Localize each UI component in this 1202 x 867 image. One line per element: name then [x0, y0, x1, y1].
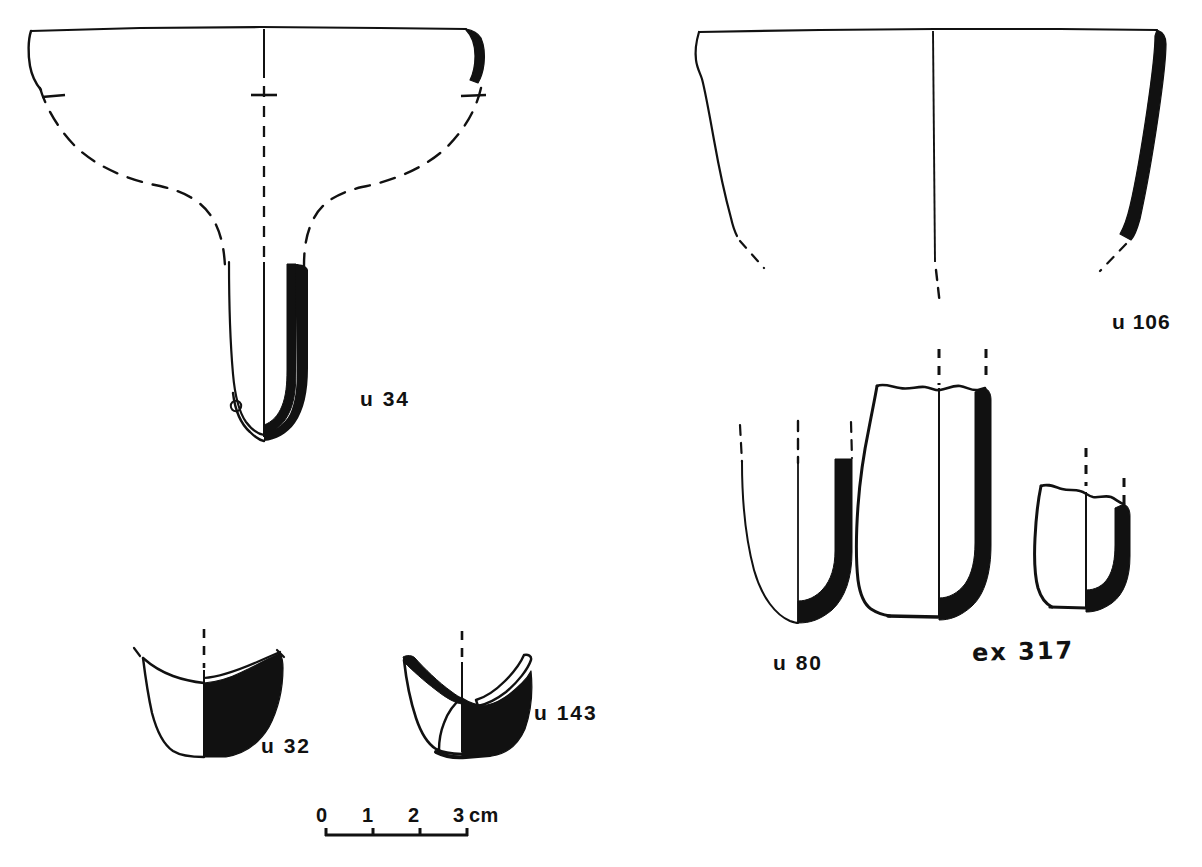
figure-u106: [696, 29, 1166, 305]
scale-number-1: 1: [362, 805, 373, 825]
u34-left-tick: [42, 95, 65, 97]
u143-right-black-body: [462, 671, 532, 756]
ex317tall-right-black: [939, 388, 991, 620]
u34-right-dashed-profile: [304, 88, 481, 266]
ex317small-broken-top-edge: [1041, 485, 1124, 504]
figure-ex317-tall: [857, 349, 992, 620]
ex317tall-base-bottom: [888, 616, 938, 617]
figure-label-u106: u 106: [1112, 311, 1171, 332]
u32-left-break-tick: [134, 648, 140, 656]
u32-left-rim-interior: [143, 658, 204, 683]
u143-left-interior-wall: [439, 698, 462, 750]
u106-left-wall: [696, 32, 737, 236]
u34-right-tick: [461, 95, 486, 96]
u34-right-rim-black: [466, 29, 484, 83]
figure-u143: [403, 631, 532, 757]
figure-label-u80: u 80: [773, 652, 823, 673]
ex317small-base-bottom: [1050, 607, 1086, 608]
figure-label-u34: u 34: [360, 388, 410, 409]
figure-u34: [29, 27, 486, 441]
u106-right-break-dashes: [1100, 244, 1126, 271]
pottery-plate: u 34 u 106 u 80 ex 317 u 32 u 143 0 1 2 …: [0, 0, 1202, 867]
u34-stem-right-black: [264, 264, 296, 435]
figure-label-u32: u 32: [261, 735, 311, 756]
u106-rim-top-line: [699, 29, 1157, 32]
scale-unit-label: cm: [469, 805, 499, 825]
figure-label-ex317: ex 317: [972, 638, 1075, 665]
u34-left-rim-wall: [29, 31, 41, 90]
u34-left-dashed-profile: [40, 88, 225, 266]
figure-ex317-small: [1035, 448, 1130, 612]
u34-stem-left-outline: [229, 262, 264, 435]
ex317tall-broken-top-edge: [877, 385, 985, 390]
scale-bar-numbers: 0 1 2 3 cm: [316, 805, 556, 829]
figure-label-u143: u 143: [534, 702, 598, 723]
ex317small-right-black: [1086, 504, 1130, 612]
ex317tall-left-outline: [857, 386, 891, 616]
scale-number-0: 0: [316, 805, 327, 825]
ex317small-left-outline: [1035, 486, 1052, 607]
u80-left-break-dashes: [740, 425, 742, 462]
u106-axis-solid: [933, 31, 935, 262]
u80-left-outline: [742, 462, 798, 623]
u106-left-break-dashes: [740, 241, 764, 268]
pottery-drawings-svg: [0, 0, 1202, 867]
u80-right-black-wall: [798, 459, 852, 623]
u80-right-break-dashes: [851, 422, 852, 458]
u106-axis-dashed: [936, 270, 940, 305]
u32-left-outer-wall: [143, 658, 204, 757]
figure-u80: [740, 421, 852, 623]
u143-left-rim-spur: [403, 656, 462, 704]
scale-number-2: 2: [408, 805, 419, 825]
u106-right-wall-black: [1120, 30, 1166, 240]
scale-number-3: 3: [453, 805, 464, 825]
scale-bar: [325, 828, 468, 836]
u34-rim-top-line: [31, 27, 466, 31]
